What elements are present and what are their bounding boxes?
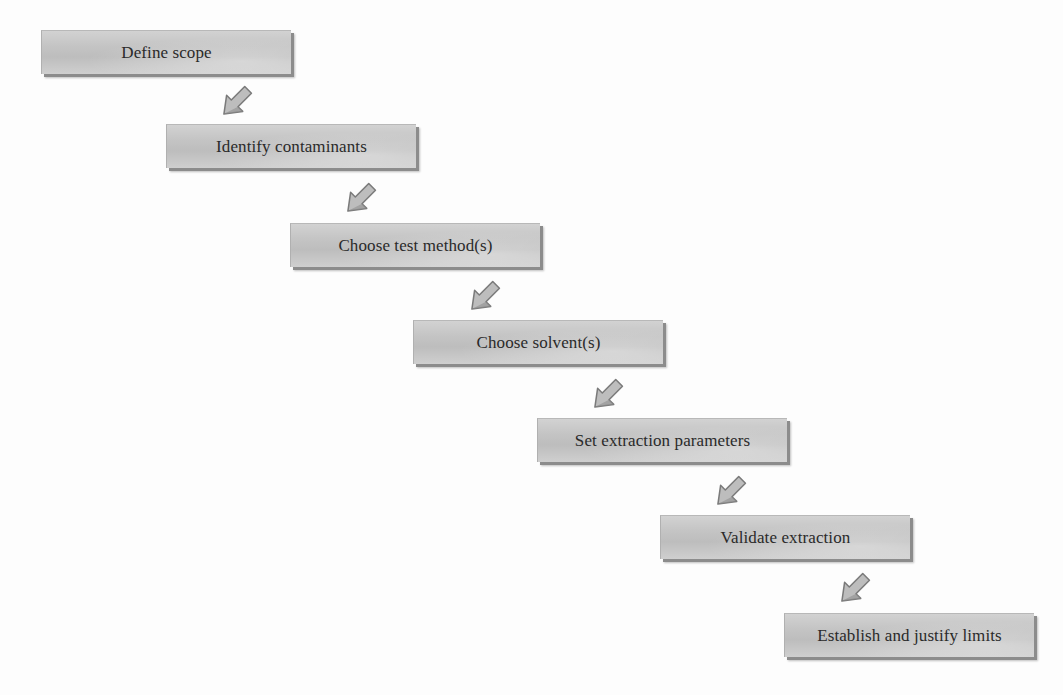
- step-identify-contaminants: Identify contaminants: [166, 124, 416, 168]
- step-choose-test-methods: Choose test method(s): [290, 223, 540, 267]
- step-define-scope: Define scope: [41, 30, 291, 74]
- step-validate-extraction: Validate extraction: [660, 515, 910, 559]
- step-label: Define scope: [121, 43, 211, 63]
- arrow-down-right-icon: [341, 180, 379, 218]
- arrow-down-right-icon: [588, 376, 626, 414]
- step-label: Establish and justify limits: [817, 626, 1002, 646]
- step-label: Validate extraction: [721, 528, 851, 548]
- step-label: Choose solvent(s): [477, 333, 601, 353]
- step-set-extraction-parameters: Set extraction parameters: [537, 418, 787, 462]
- step-label: Choose test method(s): [338, 236, 492, 256]
- arrow-down-right-icon: [711, 473, 749, 511]
- arrow-down-right-icon: [217, 83, 255, 121]
- arrow-down-right-icon: [465, 278, 503, 316]
- step-label: Identify contaminants: [216, 137, 367, 157]
- arrow-down-right-icon: [835, 570, 873, 608]
- step-establish-justify-limits: Establish and justify limits: [784, 613, 1034, 657]
- step-label: Set extraction parameters: [575, 431, 750, 451]
- step-choose-solvents: Choose solvent(s): [413, 320, 663, 364]
- flow-diagram: Define scope Identify contaminants Choos…: [0, 0, 1063, 695]
